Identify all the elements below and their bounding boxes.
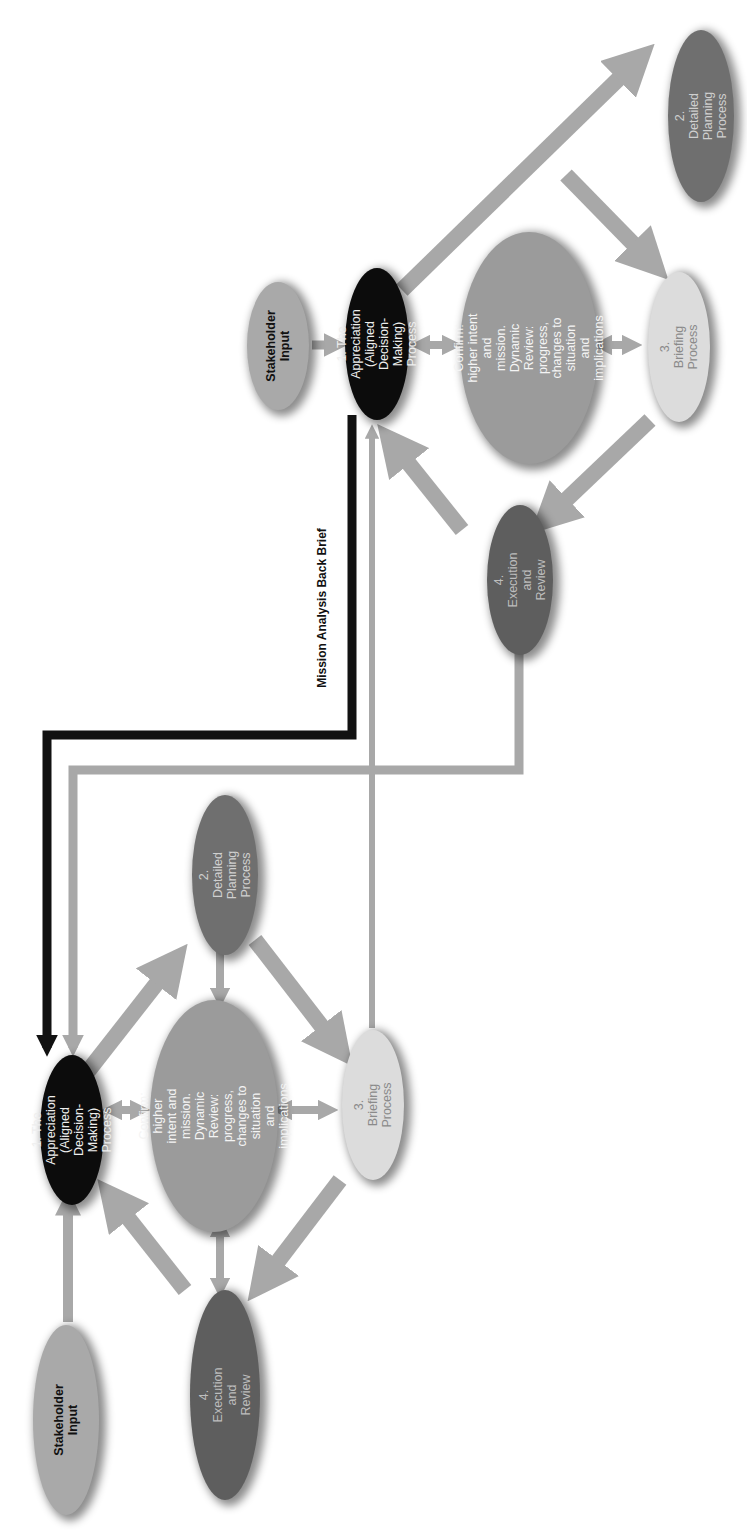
- higher-execution-node: 4. Execution and Review: [487, 505, 553, 655]
- lower-briefing-node: 3. Briefing Process: [342, 1030, 404, 1180]
- node-label: Stakeholder Input: [264, 310, 292, 382]
- lower-confirm-node: Confirm: higher intent and mission. Dyna…: [150, 1000, 278, 1232]
- higher-appreciation-node: 1. The Appreciation (Aligned Decision- M…: [345, 268, 409, 420]
- node-label: 2. Detailed Planning Process: [197, 851, 253, 900]
- back-brief-label: Mission Analysis Back Brief: [315, 528, 329, 688]
- diagram-canvas: Stakeholder Input 1. The Appreciation (A…: [0, 0, 747, 1530]
- higher-stakeholder-input-node: Stakeholder Input: [247, 282, 309, 410]
- higher-confirm-node: Confirm: higher intent and mission. Dyna…: [460, 232, 598, 464]
- node-label: 4. Execution and Review: [197, 1368, 253, 1423]
- lower-planning-node: 2. Detailed Planning Process: [192, 795, 258, 955]
- node-label: Stakeholder Input: [52, 1384, 80, 1456]
- higher-briefing-node: 3. Briefing Process: [648, 272, 710, 422]
- lower-appreciation-node: 1. The Appreciation (Aligned Decision- M…: [40, 1055, 104, 1205]
- node-label: 3. Briefing Process: [352, 1082, 394, 1127]
- node-label: 1. The Appreciation (Aligned Decision- M…: [30, 1095, 114, 1164]
- node-label: 4. Execution and Review: [492, 553, 548, 608]
- node-label: 2. Detailed Planning Process: [673, 92, 729, 141]
- node-label: Confirm: higher intent and mission. Dyna…: [452, 314, 606, 383]
- lower-stakeholder-input-node: Stakeholder Input: [33, 1325, 99, 1515]
- lower-execution-node: 4. Execution and Review: [190, 1290, 260, 1500]
- node-label: 1. The Appreciation (Aligned Decision- M…: [335, 309, 419, 378]
- higher-planning-node: 2. Detailed Planning Process: [668, 30, 734, 202]
- node-label: Confirm: higher intent and mission. Dyna…: [137, 1083, 291, 1148]
- node-label: 3. Briefing Process: [658, 324, 700, 369]
- confirm-links-layer: [0, 0, 747, 1530]
